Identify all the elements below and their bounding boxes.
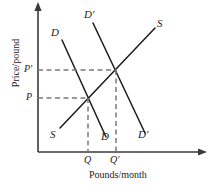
y-axis-title: Price/pound: [11, 23, 21, 103]
y-tick-label-price: P: [26, 92, 32, 102]
x-tick-label-quantity: Q: [84, 155, 91, 165]
chart-canvas: [0, 0, 215, 186]
x-axis-title: Pounds/month: [89, 170, 147, 180]
demand-shifted-curve: [93, 23, 145, 133]
curve-label-demand-shifted-bottom: D': [138, 129, 148, 140]
curve-label-supply-top: S: [157, 18, 163, 29]
y-axis-arrowhead: [34, 2, 41, 11]
curve-label-supply-bottom: S: [50, 129, 56, 140]
y-axis-title-wrapper: Price/pound: [11, 23, 25, 103]
x-tick-label-quantity-prime: Q': [110, 155, 119, 165]
supply-demand-chart: D D' S S D D' P' P Q Q' Price/pound Poun…: [0, 0, 215, 186]
curve-label-demand-top: D: [51, 27, 59, 38]
demand-curve: [62, 40, 106, 137]
curve-label-demand-shifted-top: D': [84, 9, 94, 20]
supply-curve: [60, 28, 155, 128]
x-axis-arrowhead: [198, 148, 207, 155]
curve-label-demand-bottom: D: [101, 131, 109, 142]
y-tick-label-price-prime: P': [24, 64, 32, 74]
